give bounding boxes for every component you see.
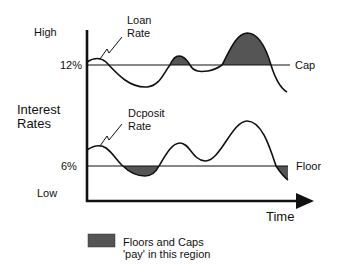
y-axis-label-2: Rates (17, 117, 51, 131)
loan-callout-pointer (100, 37, 122, 59)
low-label: Low (37, 187, 57, 199)
cap-pay-region-2 (222, 33, 271, 65)
high-label: High (34, 26, 57, 38)
loan-rate-label-2: Rate (127, 27, 150, 39)
loan-rate-label-1: Loan (127, 14, 151, 26)
deposit-rate-label-2: Rate (128, 120, 151, 132)
legend-swatch (88, 234, 115, 247)
x-axis-arrow-icon (296, 193, 314, 209)
tick-12-label: 12% (60, 59, 82, 71)
rate-diagram (0, 0, 337, 276)
tick-6-label: 6% (61, 160, 77, 172)
legend-text-2: 'pay' in this region (123, 248, 210, 260)
x-axis-label: Time (266, 210, 294, 224)
deposit-callout-pointer (100, 124, 122, 146)
deposit-rate-label-1: Dcposit (128, 107, 165, 119)
legend-text-1: Floors and Caps (123, 236, 204, 248)
cap-label: Cap (295, 59, 315, 71)
floor-label: Floor (296, 160, 321, 172)
y-axis-label-1: Interest (17, 103, 60, 117)
